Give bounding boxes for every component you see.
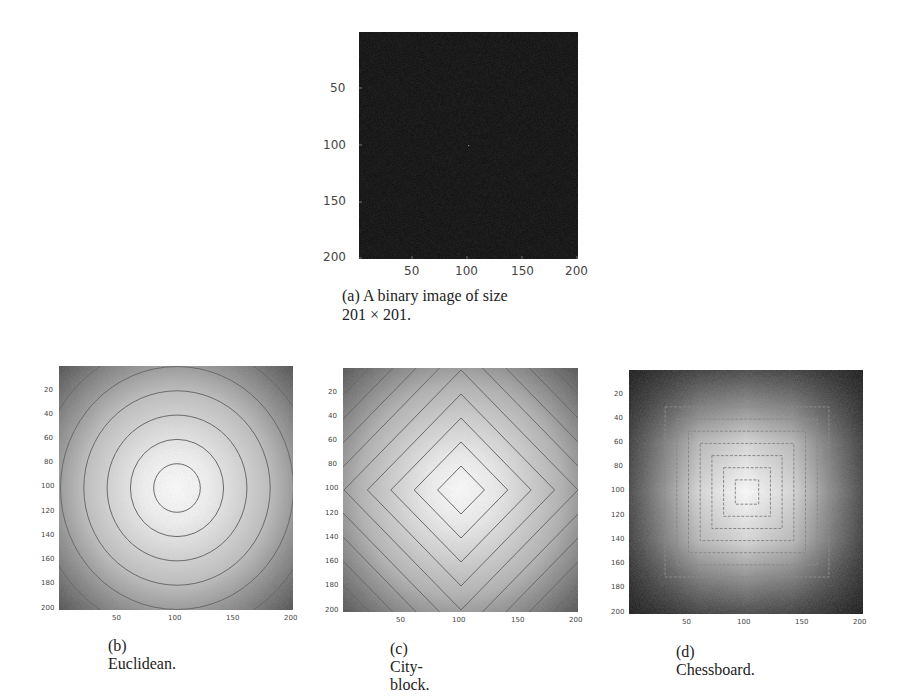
x-tick-label: 100	[455, 264, 478, 278]
y-tick-label: 80	[614, 462, 623, 470]
x-tick-label: 100	[168, 614, 181, 622]
y-tick-label: 150	[323, 194, 346, 208]
x-tick-label: 150	[511, 264, 534, 278]
y-tick-label: 200	[325, 606, 338, 614]
y-tick-label: 120	[325, 509, 338, 517]
caption-d: (d) Chessboard.	[676, 643, 755, 679]
y-tick-label: 120	[41, 507, 54, 515]
y-tick-label: 40	[328, 412, 337, 420]
caption-b: (b) Euclidean.	[108, 637, 176, 673]
y-tick-label: 60	[44, 434, 53, 442]
y-tick-label: 20	[614, 390, 623, 398]
y-tick-label: 120	[611, 511, 624, 519]
cityblock-distance-plot	[343, 368, 578, 612]
euclidean-distance-plot	[59, 366, 293, 610]
caption-a: (a) A binary image of size 201 × 201.	[342, 286, 584, 324]
y-tick-label: 140	[325, 533, 338, 541]
y-tick-label: 100	[41, 482, 54, 490]
x-tick-label: 50	[396, 616, 405, 624]
x-tick-label: 100	[737, 618, 750, 626]
y-tick-label: 180	[325, 581, 338, 589]
binary-image-plot	[359, 32, 578, 259]
y-tick-label: 20	[328, 388, 337, 396]
x-tick-label: 150	[795, 618, 808, 626]
y-tick-label: 80	[44, 458, 53, 466]
chessboard-distance-plot	[629, 370, 863, 614]
y-tick-label: 60	[614, 438, 623, 446]
y-tick-label: 20	[44, 386, 53, 394]
x-tick-label: 200	[853, 618, 866, 626]
y-tick-label: 60	[328, 436, 337, 444]
y-tick-label: 180	[611, 583, 624, 591]
y-tick-label: 200	[611, 608, 624, 616]
y-tick-label: 80	[328, 460, 337, 468]
y-tick-label: 40	[614, 414, 623, 422]
x-tick-label: 50	[404, 264, 419, 278]
x-tick-label: 50	[112, 614, 121, 622]
x-tick-label: 50	[682, 618, 691, 626]
y-tick-label: 100	[611, 486, 624, 494]
y-tick-label: 200	[323, 250, 346, 264]
caption-a-line2: 201 × 201.	[342, 305, 584, 324]
caption-a-line1: (a) A binary image of size	[342, 286, 584, 305]
y-tick-label: 200	[41, 604, 54, 612]
y-tick-label: 50	[330, 81, 345, 95]
x-tick-label: 150	[226, 614, 239, 622]
y-tick-label: 140	[41, 531, 54, 539]
caption-c: (c) City-block.	[390, 640, 430, 694]
y-tick-label: 180	[41, 579, 54, 587]
y-tick-label: 140	[611, 535, 624, 543]
y-tick-label: 160	[41, 555, 54, 563]
x-tick-label: 200	[284, 614, 297, 622]
x-tick-label: 150	[511, 616, 524, 624]
x-tick-label: 100	[452, 616, 465, 624]
y-tick-label: 100	[325, 484, 338, 492]
x-tick-label: 200	[569, 616, 582, 624]
y-tick-label: 40	[44, 410, 53, 418]
y-tick-label: 160	[611, 559, 624, 567]
y-tick-label: 160	[325, 557, 338, 565]
x-tick-label: 200	[565, 264, 588, 278]
y-tick-label: 100	[323, 138, 346, 152]
